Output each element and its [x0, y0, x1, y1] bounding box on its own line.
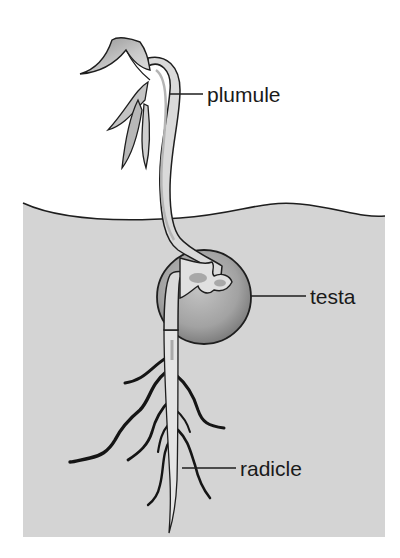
plumule-leaves — [80, 38, 150, 168]
label-testa: testa — [310, 286, 356, 307]
label-plumule: plumule — [207, 84, 281, 105]
label-radicle: radicle — [240, 458, 302, 479]
seed-germination-diagram: plumule testa radicle — [0, 0, 400, 558]
diagram-illustration — [0, 0, 400, 558]
